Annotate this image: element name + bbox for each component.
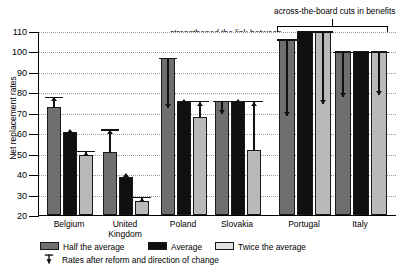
reform-marker-stem <box>342 52 343 97</box>
reform-marker-stem <box>253 102 254 151</box>
reform-marker-cap <box>213 101 231 102</box>
reform-marker-cap <box>313 31 333 32</box>
legend-row-reform: Rates after reform and direction of chan… <box>40 253 350 266</box>
legend: Half the average Average Twice the avera… <box>40 240 350 266</box>
bar <box>47 107 61 215</box>
x-axis-label: Italy <box>320 219 400 229</box>
y-axis-tick <box>29 216 39 217</box>
reform-arrow-icon <box>43 253 55 265</box>
y-axis-tick <box>29 32 39 33</box>
reform-marker-arrowhead <box>302 98 308 102</box>
legend-swatch-average <box>148 242 167 250</box>
y-axis-tick <box>29 134 39 135</box>
y-axis-tick-label: 20 <box>3 212 27 221</box>
legend-swatch-half <box>40 242 59 250</box>
reform-marker-arrowhead <box>139 198 145 202</box>
y-axis-tick-label: 60 <box>3 130 27 139</box>
reform-marker-stem <box>286 40 287 116</box>
reform-marker-arrowhead <box>320 100 326 104</box>
legend-label-average: Average <box>171 242 202 252</box>
y-axis-tick-label: 90 <box>3 68 27 77</box>
y-axis-tick <box>29 114 39 115</box>
y-axis-tick <box>29 73 39 74</box>
legend-row-series: Half the average Average Twice the avera… <box>40 240 350 253</box>
y-axis-tick-label: 40 <box>3 171 27 180</box>
bar <box>103 152 117 215</box>
bar <box>63 132 77 215</box>
chart-figure: protecting low earners strengthened the … <box>0 0 403 275</box>
legend-label-twice: Twice the average <box>238 242 306 252</box>
reform-marker-arrowhead <box>123 173 129 177</box>
y-axis-tick-label: 100 <box>3 48 27 57</box>
reform-marker-arrowhead <box>376 91 382 95</box>
x-axis-label-line1: Italy <box>320 219 400 229</box>
reform-marker-cap <box>277 39 297 40</box>
reform-marker-arrowhead <box>83 152 89 156</box>
y-axis-tick-label: 50 <box>3 150 27 159</box>
y-axis-tick-label: 110 <box>3 28 27 37</box>
reform-marker-cap <box>333 52 353 53</box>
legend-label-reform: Rates after reform and direction of chan… <box>62 255 219 265</box>
bar <box>193 117 207 215</box>
reform-marker-arrowhead <box>197 102 203 106</box>
reform-marker-arrowhead <box>219 110 225 114</box>
x-axis-label-line1: Slovakia <box>200 219 274 229</box>
reform-marker-stem <box>167 59 168 108</box>
legend-label-half: Half the average <box>63 242 124 252</box>
reform-marker-cap <box>295 29 315 30</box>
annotation-across-the-board-cuts: across-the-board cuts in benefits <box>274 6 396 16</box>
reform-marker-arrowhead <box>165 104 171 108</box>
plot-area: 2030405060708090100110 <box>38 32 396 216</box>
bar <box>231 101 245 215</box>
reform-marker-stem <box>304 30 305 102</box>
x-axis-label: Slovakia <box>200 219 274 229</box>
bar <box>247 150 261 215</box>
bar <box>215 101 229 215</box>
y-axis-tick <box>29 93 39 94</box>
brace-cuts-stem <box>332 19 333 27</box>
reform-marker-stem <box>378 52 379 95</box>
bar <box>119 177 133 215</box>
reform-marker-arrowhead <box>51 97 57 101</box>
reform-marker-arrowhead <box>67 129 73 133</box>
reform-marker-arrowhead <box>284 112 290 116</box>
reform-marker-arrowhead <box>340 93 346 97</box>
gridline <box>39 32 396 33</box>
bar <box>353 51 369 215</box>
reform-marker-arrowhead <box>251 102 257 106</box>
bar <box>79 155 93 215</box>
reform-marker-arrowhead <box>181 99 187 103</box>
reform-marker-stem <box>322 32 323 104</box>
reform-marker-cap <box>159 58 177 59</box>
y-axis-tick-label: 80 <box>3 89 27 98</box>
x-axis-label-line2: Kingdom <box>88 229 162 239</box>
bar <box>177 101 191 215</box>
legend-swatch-twice <box>215 242 234 250</box>
reform-marker-cap <box>369 52 389 53</box>
y-axis-tick-label: 70 <box>3 109 27 118</box>
bar <box>135 201 149 215</box>
y-axis-tick <box>29 175 39 176</box>
y-axis-tick <box>29 196 39 197</box>
y-axis-tick-label: 30 <box>3 191 27 200</box>
reform-marker-arrowhead <box>107 130 113 134</box>
reform-marker-arrowhead <box>235 99 241 103</box>
y-axis-tick <box>29 155 39 156</box>
y-axis-tick <box>29 52 39 53</box>
